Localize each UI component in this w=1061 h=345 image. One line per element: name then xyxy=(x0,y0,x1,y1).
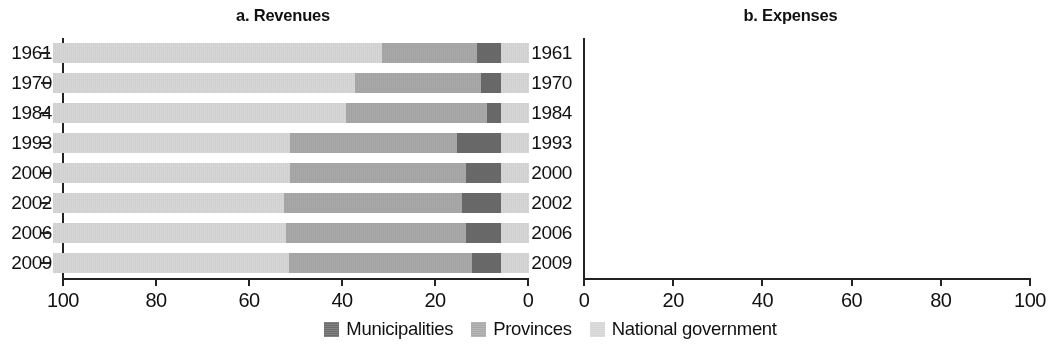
x-axis-tick-label: 40 xyxy=(752,289,773,312)
year-label: 2000 xyxy=(530,158,578,188)
panel-b-category-axis xyxy=(583,38,585,280)
x-axis-tick-label: 80 xyxy=(145,289,166,312)
bar-segment-national-government xyxy=(53,133,290,153)
year-label: 1993 xyxy=(530,128,578,158)
x-axis-tick xyxy=(248,278,250,286)
bar-segment-provinces xyxy=(284,193,462,213)
x-axis-tick-label: 60 xyxy=(841,289,862,312)
panel-b-title: b. Expenses xyxy=(530,6,1061,25)
bar-row xyxy=(53,128,501,158)
year-label: 2002 xyxy=(530,188,578,218)
x-axis-tick xyxy=(155,278,157,286)
stacked-bar xyxy=(53,253,501,273)
bar-row xyxy=(53,98,501,128)
row-tick xyxy=(41,112,50,114)
x-axis-tick-label: 60 xyxy=(238,289,259,312)
bar-segment-municipalities xyxy=(466,223,501,243)
bar-segment-provinces xyxy=(382,43,477,63)
panel-a-year-labels: 19611970198419932000200220062009 xyxy=(0,38,58,278)
row-tick xyxy=(41,232,50,234)
row-tick xyxy=(41,202,50,204)
bar-row xyxy=(53,38,501,68)
panel-b-value-axis xyxy=(583,278,1031,280)
bar-segment-municipalities xyxy=(457,133,501,153)
legend-item-provinces: Provinces xyxy=(471,318,572,340)
bar-segment-national-government xyxy=(53,253,289,273)
x-axis-tick xyxy=(434,278,436,286)
year-label: 1970 xyxy=(530,68,578,98)
x-axis-tick xyxy=(851,278,853,286)
bar-segment-municipalities xyxy=(466,163,501,183)
panel-b-year-labels: 19611970198419932000200220062009 xyxy=(530,38,578,278)
bar-segment-provinces xyxy=(290,133,457,153)
stacked-bar xyxy=(53,223,501,243)
bar-row xyxy=(53,248,501,278)
bar-segment-municipalities xyxy=(472,253,501,273)
stacked-bar xyxy=(53,73,501,93)
stacked-bar xyxy=(53,193,501,213)
legend-label: National government xyxy=(612,318,777,340)
x-axis-tick-label: 0 xyxy=(523,289,534,312)
bar-segment-national-government xyxy=(53,223,286,243)
row-tick xyxy=(41,82,50,84)
row-tick xyxy=(41,262,50,264)
row-tick xyxy=(41,142,50,144)
x-axis-tick xyxy=(341,278,343,286)
bar-row xyxy=(53,158,501,188)
stacked-bar xyxy=(53,103,501,123)
x-axis-tick xyxy=(62,278,64,286)
bar-segment-provinces xyxy=(286,223,467,243)
bar-segment-municipalities xyxy=(462,193,501,213)
stacked-bar xyxy=(53,43,501,63)
x-axis-tick xyxy=(527,278,529,286)
x-axis-tick xyxy=(761,278,763,286)
panel-b-bar-rows xyxy=(53,38,501,278)
row-tick xyxy=(41,172,50,174)
panel-b-plot-area xyxy=(53,38,501,278)
stacked-bar xyxy=(53,163,501,183)
stacked-bar xyxy=(53,133,501,153)
legend-item-national-government: National government xyxy=(590,318,777,340)
legend-swatch-icon xyxy=(324,322,339,337)
x-axis-tick xyxy=(1029,278,1031,286)
x-axis-tick-label: 80 xyxy=(930,289,951,312)
legend-swatch-icon xyxy=(590,322,605,337)
x-axis-tick-label: 0 xyxy=(579,289,590,312)
bar-segment-municipalities xyxy=(481,73,501,93)
bar-segment-provinces xyxy=(290,163,466,183)
x-axis-tick xyxy=(672,278,674,286)
bar-row xyxy=(53,68,501,98)
panel-expenses: b. Expenses xyxy=(530,0,1061,310)
bar-segment-municipalities xyxy=(477,43,501,63)
bar-segment-national-government xyxy=(53,193,284,213)
legend: MunicipalitiesProvincesNational governme… xyxy=(0,318,1061,340)
bar-segment-national-government xyxy=(53,163,290,183)
stacked-bar-figure: a. Revenues 1961197019841993200020022006… xyxy=(0,0,1061,345)
legend-swatch-icon xyxy=(471,322,486,337)
year-label: 2006 xyxy=(530,218,578,248)
x-axis-tick-label: 40 xyxy=(331,289,352,312)
row-tick xyxy=(41,52,50,54)
bar-row xyxy=(53,188,501,218)
year-label: 1961 xyxy=(530,38,578,68)
legend-label: Provinces xyxy=(493,318,572,340)
x-axis-tick-label: 100 xyxy=(47,289,79,312)
bar-segment-national-government xyxy=(53,43,382,63)
x-axis-tick-label: 100 xyxy=(1014,289,1046,312)
bar-row xyxy=(53,218,501,248)
x-axis-tick-label: 20 xyxy=(424,289,445,312)
bar-segment-provinces xyxy=(289,253,472,273)
bar-segment-national-government xyxy=(53,103,346,123)
bar-segment-municipalities xyxy=(487,103,501,123)
panel-a-value-axis xyxy=(62,278,529,280)
year-label: 2009 xyxy=(530,248,578,278)
legend-label: Municipalities xyxy=(346,318,453,340)
bar-segment-provinces xyxy=(355,73,480,93)
legend-item-municipalities: Municipalities xyxy=(324,318,453,340)
year-label: 1984 xyxy=(530,98,578,128)
panel-a-title: a. Revenues xyxy=(0,6,530,25)
x-axis-tick-label: 20 xyxy=(663,289,684,312)
bar-segment-provinces xyxy=(346,103,488,123)
x-axis-tick xyxy=(583,278,585,286)
x-axis-tick xyxy=(940,278,942,286)
